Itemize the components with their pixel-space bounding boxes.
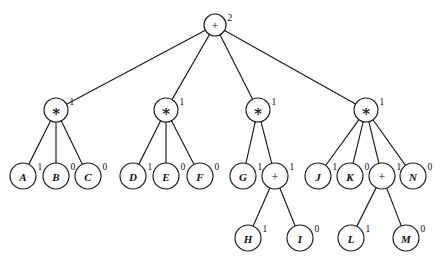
node-annotation-A: 1 bbox=[38, 162, 43, 172]
node-annotation-I: 0 bbox=[315, 224, 320, 234]
node-annotation-m4: 1 bbox=[380, 97, 385, 107]
tree-node-B[interactable]: B0 bbox=[43, 162, 76, 190]
node-label-G: G bbox=[239, 171, 247, 183]
tree-edge bbox=[172, 35, 210, 100]
tree-node-m3[interactable]: ∗1 bbox=[246, 97, 277, 123]
tree-edge bbox=[357, 188, 376, 227]
node-annotation-p1: 1 bbox=[290, 162, 295, 172]
tree-edge bbox=[369, 122, 379, 164]
tree-diagram: +2∗1∗1∗1∗1A1B0C0D1E0F0G1+1J1K0+1N0H1I0L1… bbox=[0, 0, 441, 265]
node-label-M: M bbox=[400, 233, 412, 245]
tree-edge bbox=[139, 121, 161, 165]
node-label-L: L bbox=[347, 233, 355, 245]
node-annotation-N: 0 bbox=[428, 162, 433, 172]
tree-node-K[interactable]: K0 bbox=[337, 162, 370, 190]
node-label-root: + bbox=[212, 19, 219, 33]
tree-node-F[interactable]: F0 bbox=[187, 162, 220, 190]
node-label-E: E bbox=[161, 171, 169, 183]
tree-edge bbox=[246, 122, 255, 164]
node-label-A: A bbox=[18, 171, 26, 183]
tree-edge bbox=[220, 35, 253, 99]
node-annotation-G: 1 bbox=[258, 162, 263, 172]
tree-edge bbox=[61, 121, 82, 165]
node-annotation-F: 0 bbox=[215, 162, 220, 172]
tree-edge bbox=[387, 188, 402, 226]
tree-node-M[interactable]: M0 bbox=[393, 224, 426, 252]
node-label-N: N bbox=[408, 171, 418, 183]
tree-node-I[interactable]: I0 bbox=[287, 224, 320, 252]
node-annotation-root: 2 bbox=[228, 13, 233, 23]
tree-node-N[interactable]: N0 bbox=[400, 162, 433, 190]
tree-node-p1[interactable]: +1 bbox=[262, 162, 295, 190]
node-annotation-B: 0 bbox=[71, 162, 76, 172]
tree-node-L[interactable]: L1 bbox=[338, 224, 371, 252]
tree-edge bbox=[29, 121, 51, 165]
node-label-K: K bbox=[345, 171, 354, 183]
node-label-H: H bbox=[243, 233, 253, 245]
node-label-m4: ∗ bbox=[361, 103, 371, 119]
tree-node-A[interactable]: A1 bbox=[10, 162, 43, 190]
node-label-m3: ∗ bbox=[253, 103, 263, 119]
node-label-F: F bbox=[195, 171, 204, 183]
node-label-B: B bbox=[51, 171, 59, 183]
tree-edge bbox=[67, 30, 206, 104]
node-annotation-H: 1 bbox=[263, 224, 268, 234]
node-label-I: I bbox=[297, 233, 303, 245]
node-annotation-M: 0 bbox=[421, 224, 426, 234]
tree-node-E[interactable]: E0 bbox=[153, 162, 186, 190]
node-annotation-E: 0 bbox=[181, 162, 186, 172]
tree-node-m4[interactable]: ∗1 bbox=[354, 97, 385, 123]
node-label-C: C bbox=[84, 171, 92, 183]
tree-edge bbox=[225, 30, 356, 104]
tree-node-J[interactable]: J1 bbox=[305, 162, 338, 190]
node-label-D: D bbox=[128, 171, 137, 183]
tree-edge bbox=[172, 121, 195, 165]
nodes-layer: +2∗1∗1∗1∗1A1B0C0D1E0F0G1+1J1K0+1N0H1I0L1… bbox=[10, 13, 433, 252]
edges-layer bbox=[29, 30, 406, 226]
tree-edge bbox=[353, 122, 363, 164]
diagram-canvas: +2∗1∗1∗1∗1A1B0C0D1E0F0G1+1J1K0+1N0H1I0L1… bbox=[0, 0, 441, 265]
node-label-p2: + bbox=[379, 170, 386, 184]
node-annotation-C: 0 bbox=[103, 162, 108, 172]
node-label-m1: ∗ bbox=[51, 103, 61, 119]
node-annotation-K: 0 bbox=[365, 162, 370, 172]
tree-node-H[interactable]: H1 bbox=[235, 224, 268, 252]
node-label-m2: ∗ bbox=[161, 103, 171, 119]
node-annotation-m2: 1 bbox=[180, 97, 185, 107]
tree-edge bbox=[280, 188, 295, 226]
tree-edge bbox=[253, 188, 270, 226]
tree-node-m1[interactable]: ∗1 bbox=[44, 97, 75, 123]
tree-node-D[interactable]: D1 bbox=[120, 162, 153, 190]
node-annotation-J: 1 bbox=[333, 162, 338, 172]
node-annotation-m1: 1 bbox=[70, 97, 75, 107]
node-annotation-L: 1 bbox=[366, 224, 371, 234]
node-annotation-D: 1 bbox=[148, 162, 153, 172]
node-label-J: J bbox=[314, 171, 321, 183]
node-annotation-m3: 1 bbox=[272, 97, 277, 107]
tree-node-m2[interactable]: ∗1 bbox=[154, 97, 185, 123]
tree-edge bbox=[261, 122, 272, 164]
node-label-p1: + bbox=[272, 170, 279, 184]
tree-node-C[interactable]: C0 bbox=[75, 162, 108, 190]
node-annotation-p2: 1 bbox=[397, 162, 402, 172]
tree-node-p2[interactable]: +1 bbox=[369, 162, 402, 190]
tree-node-G[interactable]: G1 bbox=[230, 162, 263, 190]
